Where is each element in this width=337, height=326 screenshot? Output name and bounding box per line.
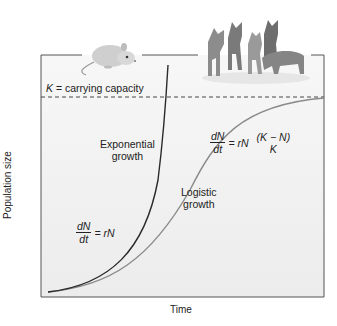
carrying-capacity-label: K = carrying capacity <box>46 82 144 94</box>
exponential-equation: dN dt = rN <box>76 220 115 245</box>
y-axis-label: Population size <box>2 135 14 235</box>
x-axis-label: Time <box>170 304 192 316</box>
wolves-illustration <box>200 14 312 84</box>
derivative-fraction: dN dt <box>210 130 225 155</box>
logistic-growth-label: Logistic growth <box>181 186 217 210</box>
derivative-fraction: dN dt <box>76 220 91 245</box>
exponential-growth-label: Exponential growth <box>100 138 155 162</box>
limiting-factor-fraction: (K − N) K <box>256 131 292 155</box>
logistic-equation: dN dt = rN (K − N) K <box>210 130 291 155</box>
exponential-curve <box>48 65 168 292</box>
mouse-illustration <box>72 38 142 78</box>
